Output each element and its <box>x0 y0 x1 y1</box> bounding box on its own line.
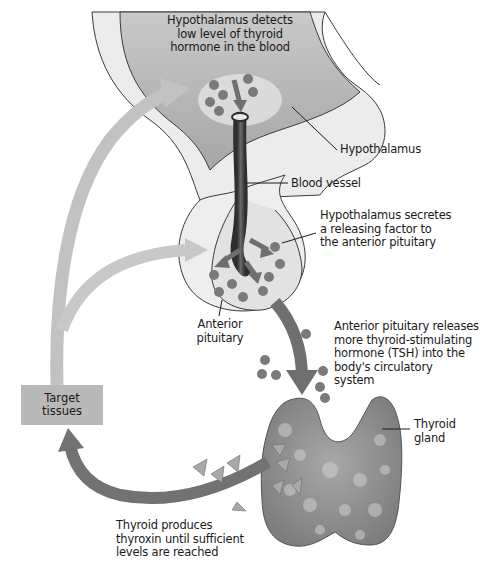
target-tissues-box: Target tissues <box>21 385 103 425</box>
label-thyroid-produces: Thyroid produces thyroxin until sufficie… <box>116 519 244 560</box>
feedback-arrow-to-pituitary <box>62 238 208 330</box>
label-blood-vessel: Blood vessel <box>291 177 361 191</box>
label-anterior-pituitary: Anterior pituitary <box>188 318 252 345</box>
thyroid-gland-shape <box>261 397 402 546</box>
label-thyroid-gland: Thyroid gland <box>414 418 456 445</box>
diagram-artwork <box>0 0 483 571</box>
label-hypothalamus-detects: Hypothalamus detects low level of thyroi… <box>140 14 320 55</box>
tsh-arrow <box>275 302 318 395</box>
label-hypothalamus-secretes: Hypothalamus secretes a releasing factor… <box>320 209 451 250</box>
thyroid-feedback-diagram: Hypothalamus detects low level of thyroi… <box>0 0 483 571</box>
label-pituitary-releases-tsh: Anterior pituitary releases more thyroid… <box>334 320 479 388</box>
label-hypothalamus: Hypothalamus <box>340 143 421 157</box>
